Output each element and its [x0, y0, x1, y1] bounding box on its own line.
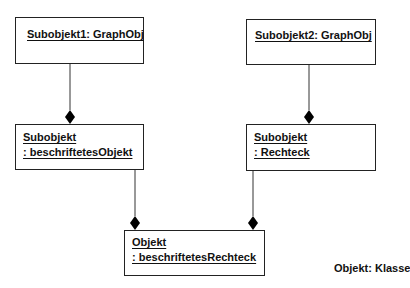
- object-subobjekt-beschriftetesobjekt[interactable]: Subobjekt : beschriftetesObjekt: [15, 124, 144, 170]
- object-class: : beschriftetesObjekt: [23, 146, 132, 159]
- composition-diamond-icon: [130, 216, 140, 230]
- object-class: : Rechteck: [254, 146, 310, 159]
- composition-diamond-icon: [65, 110, 75, 124]
- legend-label: Objekt: Klasse: [334, 262, 410, 274]
- composition-diamond-icon: [304, 110, 314, 124]
- object-name: Subobjekt: [254, 131, 307, 144]
- object-objekt-beschriftetesrechteck[interactable]: Objekt : beschriftetesRechteck: [124, 230, 265, 276]
- object-name: Objekt: [132, 236, 166, 249]
- object-subobjekt2-graphobj[interactable]: Subobjekt2: GraphObj: [246, 19, 376, 65]
- object-class: : beschriftetesRechteck: [132, 251, 256, 264]
- object-name: Subobjekt: [23, 131, 76, 144]
- object-subobjekt-rechteck[interactable]: Subobjekt : Rechteck: [246, 124, 376, 171]
- object-name: Subobjekt1: GraphObj: [27, 28, 144, 41]
- composition-diamond-icon: [248, 216, 258, 230]
- object-subobjekt1-graphobj[interactable]: Subobjekt1: GraphObj: [15, 17, 144, 64]
- object-name: Subobjekt2: GraphObj: [255, 29, 372, 42]
